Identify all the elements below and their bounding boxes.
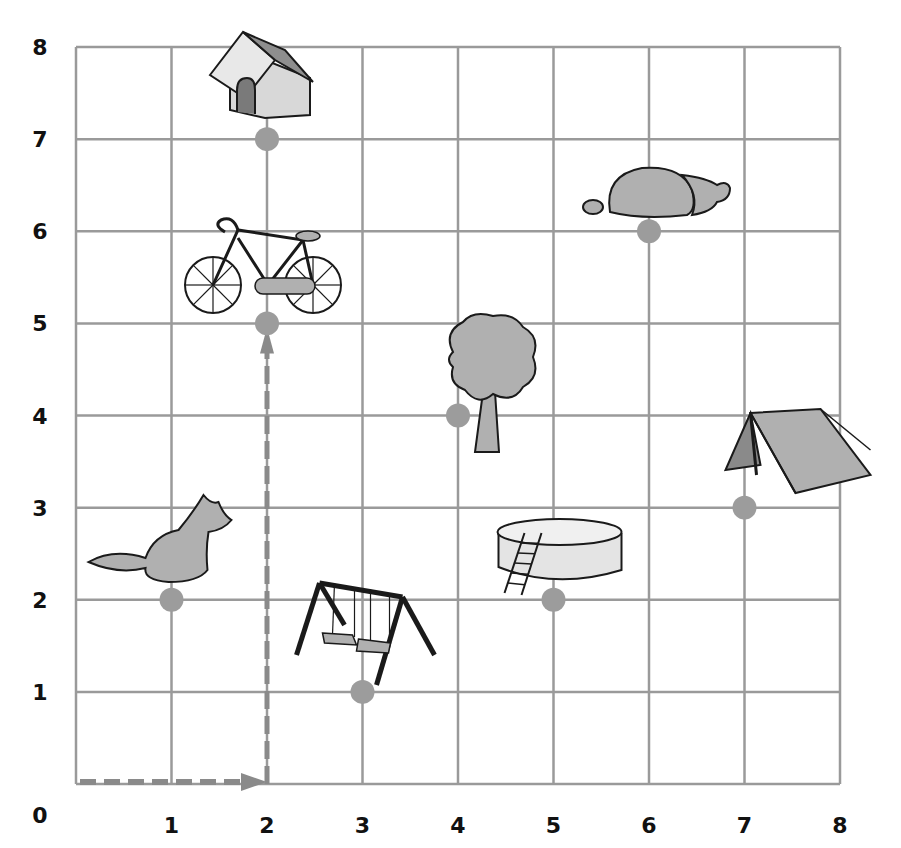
doghouse-icon [210,32,313,118]
y-axis-label: 3 [32,495,47,520]
point-marker [446,404,470,428]
point-marker [542,588,566,612]
x-axis-label: 5 [546,813,561,838]
origin-label: 0 [32,803,47,828]
swing-set-icon [297,583,435,685]
y-axis-label: 1 [32,679,47,704]
coordinate-grid-diagram [0,0,901,848]
x-axis-label: 3 [355,813,370,838]
point-marker [255,311,279,335]
y-axis-label: 2 [32,587,47,612]
pool-icon [498,519,622,595]
x-axis-label: 2 [259,813,274,838]
x-axis-label: 4 [450,813,465,838]
y-axis-label: 4 [32,403,47,428]
point-marker [637,219,661,243]
point-marker [255,127,279,151]
bicycle-icon [185,219,341,313]
y-axis-label: 8 [32,35,47,60]
tree-icon [449,314,535,452]
grid-canvas [0,0,901,848]
rocks-icon [583,168,730,217]
arrowhead-right-icon [241,773,267,791]
x-axis-label: 7 [737,813,752,838]
y-axis-label: 6 [32,219,47,244]
point-marker [351,680,375,704]
point-marker [160,588,184,612]
x-axis-label: 1 [164,813,179,838]
y-axis-label: 7 [32,127,47,152]
x-axis-label: 6 [641,813,656,838]
x-axis-label: 8 [832,813,847,838]
y-axis-label: 5 [32,311,47,336]
point-marker [733,496,757,520]
tent-icon [726,409,871,493]
